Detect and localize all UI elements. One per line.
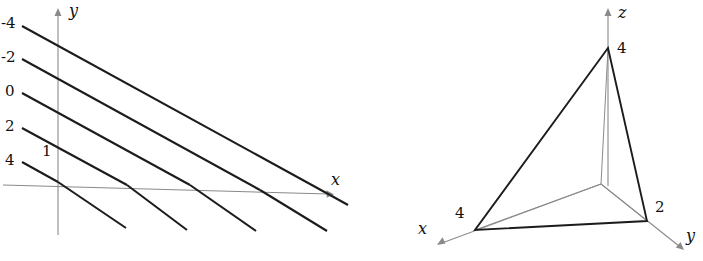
tetra-edge-origin-to-z <box>601 48 608 184</box>
level-curve-continuation-group <box>58 182 348 231</box>
level-curve-four <box>22 162 58 182</box>
z-axis-arrow-icon <box>605 8 612 16</box>
contour-label-minus4: -4 <box>1 14 16 32</box>
level-curve-four-cont <box>58 182 126 228</box>
level-curve-two-cont <box>127 185 187 230</box>
y-axis <box>55 8 62 235</box>
vertex-label-x: 4 <box>455 204 465 222</box>
tetra-edge-origin-to-x <box>475 184 601 230</box>
y-intercept-label-one: 1 <box>42 142 52 160</box>
contour-label-minus2: -2 <box>1 48 16 66</box>
contour-label-four: 4 <box>5 151 15 169</box>
math-figure-svg: -4 -2 0 2 4 1 y x <box>0 0 703 261</box>
level-curve-minus4 <box>22 26 330 195</box>
tetra-y-axis-arrow-icon <box>676 242 684 250</box>
tetra-y-axis-label: y <box>685 226 696 245</box>
x-axis-label: x <box>331 170 340 189</box>
tetra-slant-face <box>475 48 647 230</box>
y-axis-label: y <box>68 1 79 20</box>
tetra-x-axis-arrow-icon <box>437 237 446 245</box>
vertex-label-z: 4 <box>617 39 627 57</box>
level-curve-minus4-cont <box>330 195 348 205</box>
x-axis-line <box>3 185 329 194</box>
level-curve-minus2-cont <box>260 190 327 231</box>
vertex-label-y: 2 <box>655 198 665 216</box>
tetra-solid-edges <box>475 48 647 230</box>
contour-label-two: 2 <box>5 117 15 135</box>
x-axis <box>3 185 334 198</box>
tetra-x-axis-label: x <box>418 219 427 238</box>
figure-root: -4 -2 0 2 4 1 y x <box>0 0 703 261</box>
y-axis-arrow-icon <box>55 8 62 16</box>
contour-label-zero: 0 <box>5 82 15 100</box>
tetra-z-axis-label: z <box>617 3 627 22</box>
level-curve-group <box>22 26 330 195</box>
level-curve-zero <box>22 93 190 185</box>
contour-plot-panel: -4 -2 0 2 4 1 y x <box>1 1 348 235</box>
tetra-hidden-edges <box>475 48 647 230</box>
level-curve-two <box>22 128 127 185</box>
tetrahedron-panel: 4 4 2 x y z <box>418 3 696 250</box>
